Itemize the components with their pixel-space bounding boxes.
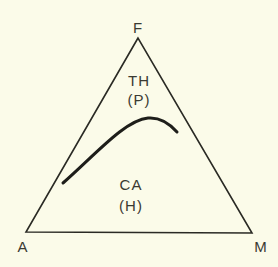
region-label-th: TH <box>128 73 150 88</box>
region-sub-h: (H) <box>119 198 143 213</box>
vertex-label-m: M <box>254 239 268 254</box>
region-sub-p: (P) <box>128 92 151 107</box>
vertex-label-a: A <box>17 239 28 254</box>
region-label-ca: CA <box>120 177 143 192</box>
ternary-diagram <box>0 0 278 267</box>
vertex-label-f: F <box>133 20 143 35</box>
boundary-curve <box>63 118 177 183</box>
